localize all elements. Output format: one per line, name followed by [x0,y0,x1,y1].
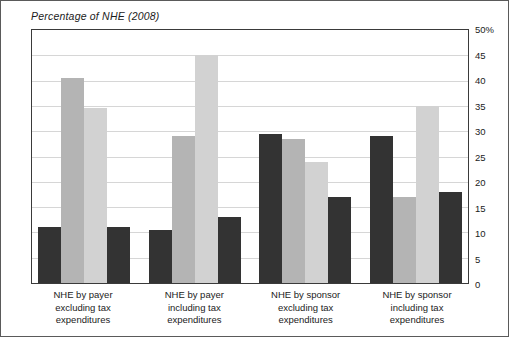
y-axis-tick-label: 10 [475,228,486,239]
bar [416,106,439,283]
category-label-line: including tax [148,302,240,315]
y-axis-tick-label: 45 [475,49,486,60]
y-axis-tick-label: 25 [475,151,486,162]
category-label-line: excluding tax [37,302,129,315]
bar [370,136,393,283]
chart-title: Percentage of NHE (2008) [31,10,160,22]
category-label-line: expenditures [371,314,463,327]
bar [259,134,282,283]
y-axis-tick-label: 40 [475,75,486,86]
x-axis-category-label: NHE by payerexcluding taxexpenditures [37,289,129,327]
category-label-line: expenditures [148,314,240,327]
x-axis-category-label: NHE by sponsorincluding taxexpenditures [371,289,463,327]
category-label-line: NHE by sponsor [371,289,463,302]
plot-area [31,29,469,284]
bar [218,217,241,283]
bar [84,108,107,283]
bar [107,227,130,283]
bar [172,136,195,283]
bar [393,197,416,283]
category-label-line: NHE by sponsor [260,289,352,302]
bar-group [38,30,130,283]
category-label-line: excluding tax [260,302,352,315]
category-label-line: expenditures [260,314,352,327]
y-axis-tick-label: 30 [475,126,486,137]
y-axis-tick-labels: 50%454035302520151050 [471,29,509,284]
y-axis-tick-label: 20 [475,177,486,188]
y-axis-tick-label: 0 [475,279,480,290]
bar [61,78,84,283]
bar [195,55,218,283]
bar-group [370,30,462,283]
x-axis-category-labels: NHE by payerexcluding taxexpendituresNHE… [31,289,469,327]
bar [38,227,61,283]
bar [282,139,305,283]
chart-figure: Percentage of NHE (2008) 50%454035302520… [0,0,509,337]
y-axis-tick-label: 5 [475,253,480,264]
bars-layer [32,30,468,283]
bar-group [149,30,241,283]
category-label-line: NHE by payer [37,289,129,302]
x-axis-category-label: NHE by payerincluding taxexpenditures [148,289,240,327]
bar [149,230,172,283]
y-axis-tick-label: 15 [475,202,486,213]
bar-group [259,30,351,283]
bar [439,192,462,283]
category-label-line: including tax [371,302,463,315]
bar [305,162,328,283]
category-label-line: expenditures [37,314,129,327]
bar [328,197,351,283]
x-axis-category-label: NHE by sponsorexcluding taxexpenditures [260,289,352,327]
y-axis-tick-label: 50% [475,24,494,35]
y-axis-tick-label: 35 [475,100,486,111]
category-label-line: NHE by payer [148,289,240,302]
